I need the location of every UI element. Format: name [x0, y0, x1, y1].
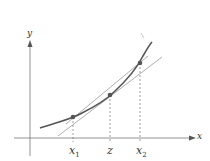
- label-x1-sub: 1: [75, 151, 79, 159]
- label-x2-sub: 2: [142, 151, 146, 159]
- curve-mark: [141, 33, 144, 38]
- point-x1: [71, 115, 76, 120]
- label-x1: x1: [69, 145, 80, 159]
- label-x2: x2: [136, 145, 147, 159]
- point-z: [108, 93, 113, 98]
- point-x2: [138, 61, 143, 66]
- label-z: z: [107, 145, 113, 156]
- y-axis-label: y: [27, 29, 32, 38]
- y-axis-arrow-icon: [28, 40, 33, 47]
- x-axis-arrow-icon: [189, 136, 196, 141]
- convex-curve: [40, 42, 152, 128]
- label-z-main: z: [107, 144, 113, 157]
- secant-chord: [66, 56, 148, 124]
- x-axis-label: x: [197, 132, 202, 141]
- convex-function-diagram: [0, 0, 210, 161]
